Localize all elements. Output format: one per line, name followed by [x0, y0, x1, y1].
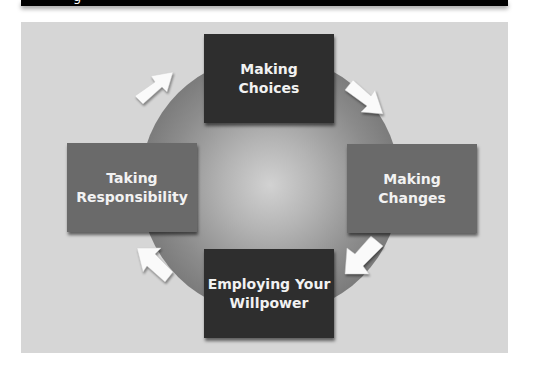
- node-label-line2: Responsibility: [76, 188, 188, 207]
- arrow-down-left-icon: [339, 234, 389, 284]
- arrow-up-left-icon: [129, 238, 179, 288]
- header-bar: g: [21, 0, 508, 6]
- node-taking-responsibility: Taking Responsibility: [67, 143, 197, 232]
- header-partial-text: g: [73, 0, 81, 4]
- node-label-line2: Changes: [378, 189, 446, 208]
- node-making-choices: Making Choices: [204, 34, 334, 123]
- node-label-line2: Willpower: [208, 294, 331, 313]
- node-label-line2: Choices: [239, 79, 300, 98]
- arrow-up-right-icon: [131, 62, 181, 112]
- node-employing-your-willpower: Employing Your Willpower: [204, 249, 334, 338]
- diagram-panel: Making Choices Making Changes Employing …: [21, 22, 508, 353]
- node-label-line1: Taking: [76, 169, 188, 188]
- node-label-line1: Making: [239, 60, 300, 79]
- node-label-line1: Employing Your: [208, 275, 331, 294]
- node-making-changes: Making Changes: [347, 144, 477, 233]
- arrow-down-right-icon: [343, 78, 393, 128]
- node-label-line1: Making: [378, 170, 446, 189]
